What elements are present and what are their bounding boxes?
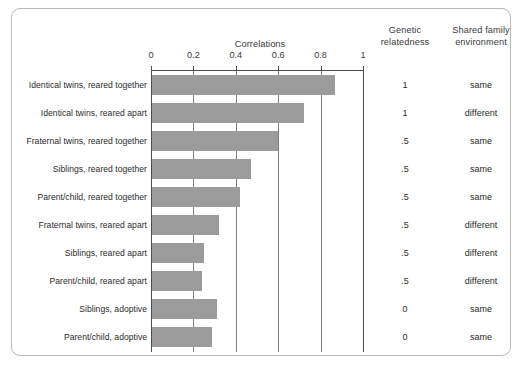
cell-genetic-relatedness: .5 xyxy=(369,211,441,239)
correlation-bar xyxy=(152,271,202,291)
column-header-shared-family-environment: Shared family environment xyxy=(441,25,521,48)
row-category-label: Parent/child, reared apart xyxy=(14,267,147,295)
correlation-bar xyxy=(152,327,212,347)
correlation-bar xyxy=(152,299,217,319)
cell-genetic-relatedness: .5 xyxy=(369,183,441,211)
genetic-header-line1: Genetic xyxy=(389,25,421,35)
cell-shared-family-environment: same xyxy=(441,295,521,323)
cell-genetic-relatedness: .5 xyxy=(369,155,441,183)
correlation-bar xyxy=(152,215,219,235)
correlation-bar-chart-figure: Genetic relatedness Shared family enviro… xyxy=(0,0,525,386)
cell-shared-family-environment: different xyxy=(441,211,521,239)
correlation-bar xyxy=(152,103,304,123)
chart-row: Identical twins, reared apart1different xyxy=(0,99,525,127)
cell-genetic-relatedness: 0 xyxy=(369,295,441,323)
row-category-label: Siblings, reared apart xyxy=(14,239,147,267)
chart-row: Siblings, adoptive0same xyxy=(0,295,525,323)
cell-shared-family-environment: same xyxy=(441,183,521,211)
chart-row: Siblings, reared apart.5different xyxy=(0,239,525,267)
cell-genetic-relatedness: .5 xyxy=(369,267,441,295)
x-tick-label: 0.6 xyxy=(263,50,293,60)
x-tick-label: 1 xyxy=(348,50,378,60)
chart-row: Parent/child, reared together.5same xyxy=(0,183,525,211)
row-category-label: Parent/child, adoptive xyxy=(14,323,147,351)
cell-shared-family-environment: same xyxy=(441,155,521,183)
chart-row: Fraternal twins, reared together.5same xyxy=(0,127,525,155)
row-category-label: Siblings, adoptive xyxy=(14,295,147,323)
chart-row: Siblings, reared together.5same xyxy=(0,155,525,183)
chart-row: Fraternal twins, reared apart.5different xyxy=(0,211,525,239)
shared-header-line2: environment xyxy=(455,37,507,47)
cell-shared-family-environment: same xyxy=(441,127,521,155)
correlation-bar xyxy=(152,75,335,95)
row-category-label: Parent/child, reared together xyxy=(14,183,147,211)
cell-genetic-relatedness: 1 xyxy=(369,71,441,99)
cell-shared-family-environment: same xyxy=(441,323,521,351)
correlation-bar xyxy=(152,159,251,179)
shared-header-line1: Shared family xyxy=(452,25,509,35)
row-category-label: Identical twins, reared together xyxy=(14,71,147,99)
cell-shared-family-environment: different xyxy=(441,267,521,295)
x-tick-label: 0.2 xyxy=(178,50,208,60)
genetic-header-line2: relatedness xyxy=(381,37,430,47)
chart-row: Parent/child, reared apart.5different xyxy=(0,267,525,295)
cell-shared-family-environment: same xyxy=(441,71,521,99)
x-tick-label: 0.4 xyxy=(221,50,251,60)
row-category-label: Fraternal twins, reared together xyxy=(14,127,147,155)
row-category-label: Fraternal twins, reared apart xyxy=(14,211,147,239)
x-axis-title: Correlations xyxy=(195,38,325,49)
correlation-bar xyxy=(152,243,204,263)
correlation-bar xyxy=(152,131,278,151)
chart-row: Parent/child, adoptive0same xyxy=(0,323,525,351)
cell-shared-family-environment: different xyxy=(441,99,521,127)
cell-genetic-relatedness: 0 xyxy=(369,323,441,351)
cell-shared-family-environment: different xyxy=(441,239,521,267)
cell-genetic-relatedness: 1 xyxy=(369,99,441,127)
correlation-bar xyxy=(152,187,240,207)
chart-row: Identical twins, reared together1same xyxy=(0,71,525,99)
row-category-label: Siblings, reared together xyxy=(14,155,147,183)
row-category-label: Identical twins, reared apart xyxy=(14,99,147,127)
x-tick-label: 0 xyxy=(136,50,166,60)
cell-genetic-relatedness: .5 xyxy=(369,239,441,267)
column-header-genetic-relatedness: Genetic relatedness xyxy=(369,25,441,48)
cell-genetic-relatedness: .5 xyxy=(369,127,441,155)
x-tick-label: 0.8 xyxy=(306,50,336,60)
